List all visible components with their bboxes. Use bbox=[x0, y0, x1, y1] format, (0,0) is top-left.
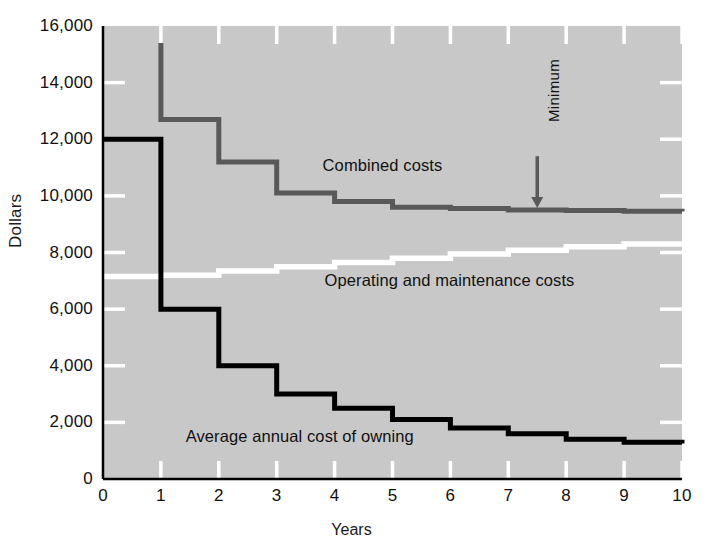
y-axis-tick-label: 0 bbox=[0, 469, 93, 489]
y-axis-tick-label: 2,000 bbox=[0, 412, 93, 432]
y-axis-tick-label: 16,000 bbox=[0, 16, 93, 36]
series-label-average-annual-owning: Average annual cost of owning bbox=[186, 427, 414, 446]
x-axis-tick-label: 0 bbox=[98, 486, 108, 506]
y-axis-tick-label: 12,000 bbox=[0, 129, 93, 149]
x-axis-tick-label: 4 bbox=[330, 486, 340, 506]
x-axis-tick-label: 9 bbox=[619, 486, 629, 506]
x-axis-tick-label: 5 bbox=[388, 486, 398, 506]
y-axis-tick-label: 4,000 bbox=[0, 356, 93, 376]
series-label-combined-costs: Combined costs bbox=[323, 156, 443, 175]
y-axis-tick-label: 10,000 bbox=[0, 186, 93, 206]
minimum-annotation-label: Minimum bbox=[545, 59, 562, 122]
x-axis-tick-label: 8 bbox=[561, 486, 571, 506]
x-axis-title: Years bbox=[0, 521, 703, 539]
x-axis-tick-label: 3 bbox=[272, 486, 282, 506]
y-axis-tick-label: 14,000 bbox=[0, 73, 93, 93]
y-axis-tick-label: 6,000 bbox=[0, 299, 93, 319]
y-axis-tick-label: 8,000 bbox=[0, 243, 93, 263]
x-axis-tick-label: 7 bbox=[503, 486, 513, 506]
x-axis-tick-label: 1 bbox=[156, 486, 166, 506]
series-label-operating-maintenance: Operating and maintenance costs bbox=[325, 271, 575, 290]
x-axis-tick-label: 6 bbox=[446, 486, 456, 506]
x-axis-tick-label: 2 bbox=[214, 486, 224, 506]
x-axis-tick-label: 10 bbox=[672, 486, 691, 506]
cost-chart: Dollars 02,0004,0006,0008,00010,00012,00… bbox=[0, 0, 703, 554]
